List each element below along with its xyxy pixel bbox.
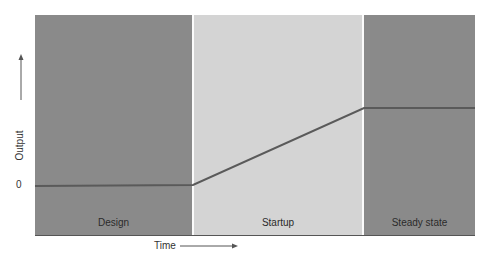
y-zero-tick-label: 0: [16, 179, 22, 190]
x-axis-label: Time: [154, 240, 176, 251]
output-curve: [0, 0, 492, 260]
y-axis-label: Output: [14, 91, 25, 161]
